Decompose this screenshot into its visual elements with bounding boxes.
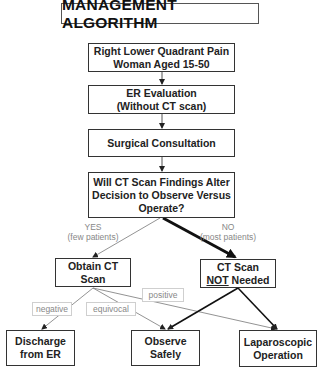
node-start-line1: Right Lower Quadrant Pain: [94, 45, 229, 58]
edge-label-positive: positive: [142, 288, 184, 302]
node-er-line2: (Without CT scan): [117, 100, 207, 113]
branch-no-sub: (most patients): [192, 232, 264, 242]
node-discharge: Discharge from ER: [6, 330, 75, 366]
diagram-title: MANAGEMENT ALGORITHM: [61, 3, 259, 24]
node-observe-line1: Observe: [144, 335, 186, 348]
branch-no-label: NO (most patients): [192, 222, 264, 242]
node-surgical-line1: Surgical Consultation: [107, 137, 216, 150]
node-observe: Observe Safely: [131, 330, 200, 366]
node-decision: Will CT Scan Findings Alter Decision to …: [88, 172, 235, 218]
node-decision-line1: Will CT Scan Findings Alter: [93, 176, 230, 189]
node-obtain-ct-line2: Scan: [80, 273, 105, 286]
node-start-line2: Woman Aged 15-50: [113, 58, 209, 71]
not-emphasis: NOT: [206, 274, 228, 286]
needed-text: Needed: [229, 274, 270, 286]
node-laparoscopic: Laparoscopic Operation: [239, 330, 317, 367]
node-ct-not-needed-line1: CT Scan: [217, 261, 259, 274]
node-surgical-consultation: Surgical Consultation: [88, 129, 235, 157]
node-laparoscopic-line1: Laparoscopic: [244, 336, 312, 349]
node-er-line1: ER Evaluation: [126, 87, 197, 100]
node-observe-line2: Safely: [150, 348, 181, 361]
branch-yes-sub: (few patients): [58, 232, 128, 242]
edge-label-negative: negative: [32, 302, 72, 316]
node-decision-line3: Operate?: [138, 202, 184, 215]
branch-yes-text: YES: [58, 222, 128, 232]
node-obtain-ct-line1: Obtain CT: [68, 260, 118, 273]
edge-notneeded-to-laparoscopic: [238, 288, 277, 329]
node-discharge-line1: Discharge: [15, 335, 66, 348]
node-discharge-line2: from ER: [20, 348, 61, 361]
node-obtain-ct: Obtain CT Scan: [55, 258, 131, 287]
node-ct-not-needed: CT Scan NOT Needed: [200, 259, 276, 288]
edge-label-equivocal: equivocal: [86, 302, 136, 316]
branch-yes-label: YES (few patients): [58, 222, 128, 242]
node-er-evaluation: ER Evaluation (Without CT scan): [88, 85, 235, 114]
node-start: Right Lower Quadrant Pain Woman Aged 15-…: [88, 43, 235, 72]
node-ct-not-needed-line2: NOT Needed: [206, 274, 269, 287]
node-laparoscopic-line2: Operation: [253, 349, 303, 362]
node-decision-line2: Decision to Observe Versus: [92, 189, 231, 202]
branch-no-text: NO: [192, 222, 264, 232]
